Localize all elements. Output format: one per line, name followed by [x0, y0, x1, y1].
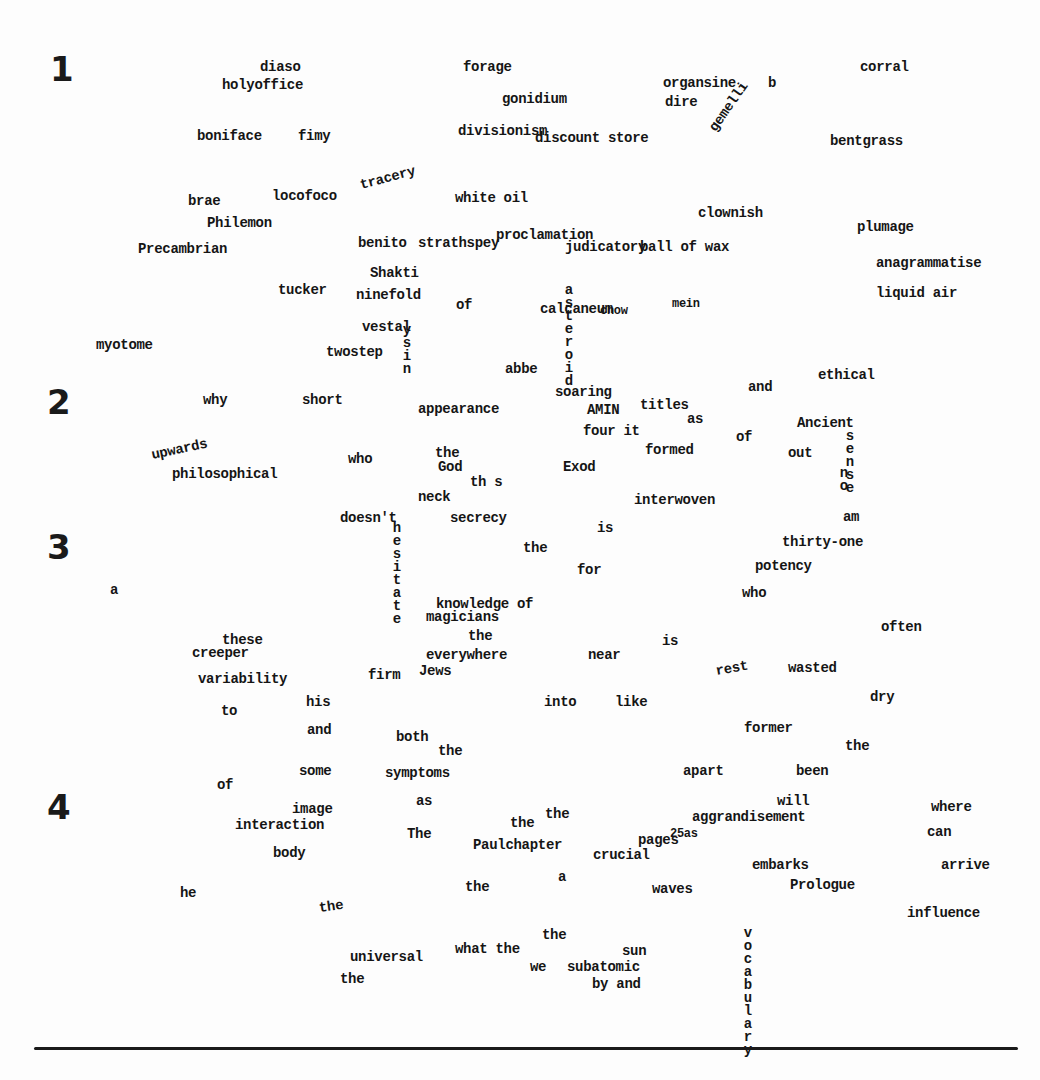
section-numeral: 1 [50, 52, 74, 86]
poem-word: of [736, 430, 752, 444]
poem-word: arrive [941, 858, 990, 872]
poem-word: holyoffice [222, 78, 303, 92]
poem-word: the [845, 739, 869, 753]
poem-word: embarks [752, 858, 809, 872]
vertical-word: ysin [400, 322, 414, 374]
poem-word: wasted [788, 661, 837, 675]
poem-word: boniface [197, 129, 262, 143]
poem-word: discount store [535, 131, 648, 145]
poem-word: dry [870, 690, 894, 704]
poem-word: can [927, 825, 951, 839]
poem-word: the [542, 928, 566, 942]
vertical-word: hesitate [390, 520, 404, 624]
poem-word: diaso [260, 60, 301, 74]
poem-word: former [744, 721, 793, 735]
poem-word: thirty-one [782, 535, 863, 549]
poem-word: rest [715, 659, 749, 678]
poem-word: short [302, 393, 343, 407]
poem-word: is [662, 634, 678, 648]
poem-word: and [748, 380, 772, 394]
poem-word: influence [907, 906, 980, 920]
poem-word: we [530, 960, 546, 974]
poem-word: anagrammatise [876, 256, 981, 270]
vertical-word: no [837, 465, 851, 491]
vertical-word: asteroid [562, 282, 576, 386]
poem-word: image [292, 802, 333, 816]
poem-word: often [881, 620, 922, 634]
poem-page: 1234 diasoholyofficeforagegonidiumorgans… [0, 0, 1040, 1080]
poem-word: a [110, 583, 118, 597]
poem-word: the [340, 972, 364, 986]
poem-word: Prologue [790, 878, 855, 892]
poem-word: Shakti [370, 266, 419, 280]
poem-word: the [318, 898, 344, 915]
poem-word: like [615, 695, 647, 709]
poem-word: near [588, 648, 620, 662]
poem-word: tucker [278, 283, 327, 297]
poem-word: the [523, 541, 547, 555]
poem-word: what the [455, 942, 520, 956]
poem-word: sun [622, 944, 646, 958]
poem-word: who [348, 452, 372, 466]
poem-word: th s [470, 475, 502, 489]
poem-word: some [299, 764, 331, 778]
poem-word: bentgrass [830, 134, 903, 148]
section-numeral: 3 [47, 530, 71, 564]
poem-word: where [931, 800, 972, 814]
poem-word: as [687, 412, 703, 426]
poem-word: Exod [563, 460, 595, 474]
poem-word: everywhere [426, 648, 507, 662]
poem-word: universal [350, 950, 423, 964]
poem-word: ninefold [356, 288, 421, 302]
poem-word: organsine [663, 76, 736, 90]
bottom-rule [34, 1047, 1018, 1050]
poem-word: formed [645, 443, 694, 457]
poem-word: been [796, 764, 828, 778]
poem-word: aggrandisement [692, 810, 805, 824]
poem-word: Philemon [207, 216, 272, 230]
poem-word: benito [358, 236, 407, 250]
poem-word: and [307, 723, 331, 737]
poem-word: out [788, 446, 812, 460]
section-numeral: 4 [47, 790, 71, 824]
poem-word: appearance [418, 402, 499, 416]
poem-word: forage [463, 60, 512, 74]
poem-word: ball of wax [640, 240, 729, 254]
poem-word: God [438, 460, 462, 474]
poem-word: symptoms [385, 766, 450, 780]
poem-word: locofoco [272, 189, 337, 203]
poem-word: waves [652, 882, 693, 896]
poem-word: the [438, 744, 462, 758]
poem-word: apart [683, 764, 724, 778]
poem-word: as [416, 794, 432, 808]
poem-word: interwoven [634, 493, 715, 507]
poem-word: his [306, 695, 330, 709]
poem-word: subatomic [567, 960, 640, 974]
poem-word: the [468, 629, 492, 643]
diagonal-word: b [768, 76, 776, 90]
poem-word: fimy [298, 129, 330, 143]
poem-word: abbe [505, 362, 537, 376]
poem-word: tracery [358, 164, 416, 192]
poem-word: mein [672, 298, 700, 310]
poem-word: is [597, 521, 613, 535]
poem-word: AMIN [587, 403, 619, 417]
poem-word: firm [368, 668, 400, 682]
poem-word: of [217, 778, 233, 792]
poem-word: plumage [857, 220, 914, 234]
poem-word: variability [198, 672, 287, 686]
poem-word: strathspey [418, 236, 499, 250]
poem-word: myotome [96, 338, 153, 352]
poem-word: ethical [818, 368, 875, 382]
poem-word: brae [188, 194, 220, 208]
poem-word: why [203, 393, 227, 407]
poem-word: divisionism [458, 124, 547, 138]
poem-word: corral [860, 60, 909, 74]
poem-word: a [558, 870, 566, 884]
poem-word: who [742, 586, 766, 600]
poem-word: liquid air [876, 286, 957, 300]
section-numeral: 2 [47, 385, 71, 419]
poem-word: twostep [326, 345, 383, 359]
poem-word: titles [640, 398, 689, 412]
poem-word: Paulchapter [473, 838, 562, 852]
